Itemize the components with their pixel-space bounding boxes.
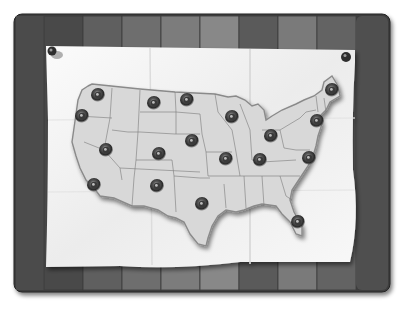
location-pin-wisconsin	[225, 110, 239, 124]
location-pin-maine	[325, 83, 339, 97]
location-pin-montana	[147, 96, 161, 110]
location-pin-north-dakota	[180, 93, 194, 107]
board-edge-left	[16, 16, 44, 290]
location-pin-oregon	[75, 109, 89, 123]
map-board-illustration	[0, 0, 411, 312]
location-pin-missouri	[219, 152, 233, 166]
location-pin-nevada	[99, 143, 113, 157]
location-pin-new-mexico	[150, 179, 164, 193]
top-right-tack	[341, 52, 351, 62]
location-pin-texas	[195, 197, 209, 211]
location-pin-ohio	[264, 129, 278, 143]
location-pin-nebraska	[185, 134, 199, 148]
board-edge-right	[356, 16, 388, 290]
location-pin-kentucky	[253, 153, 267, 167]
location-pin-new-york	[310, 114, 324, 128]
location-pin-washington	[91, 88, 105, 102]
location-pin-colorado	[152, 147, 166, 161]
location-pin-california	[87, 178, 101, 192]
location-pin-florida	[291, 215, 305, 229]
location-pin-north-carolina	[302, 151, 316, 165]
